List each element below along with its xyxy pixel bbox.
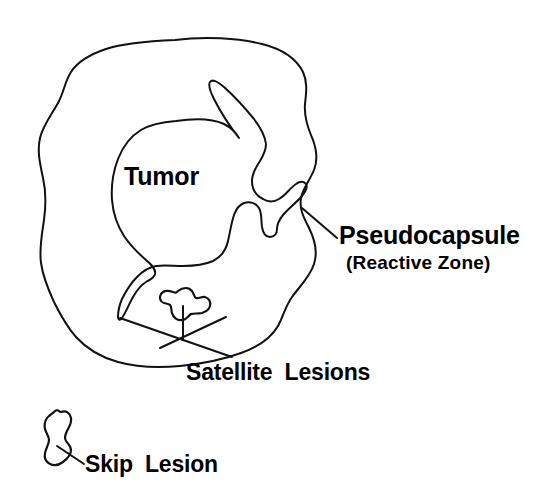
tumor-pseudocapsule-diagram: Tumor Pseudocapsule (Reactive Zone) Sate…: [0, 0, 546, 485]
tumor-tail-leader-line: [120, 318, 232, 357]
label-satellite-lesions: Satellite Lesions: [186, 360, 370, 384]
tumor-outline: [112, 81, 307, 320]
label-reactive-zone: (Reactive Zone): [346, 253, 490, 273]
pseudocapsule-outline: [39, 38, 317, 367]
skip-lesion-outline: [45, 410, 72, 465]
label-tumor: Tumor: [124, 163, 199, 189]
satellite-lesion-outline: [160, 288, 210, 320]
label-skip-lesion: Skip Lesion: [85, 452, 218, 476]
label-pseudocapsule: Pseudocapsule: [339, 222, 520, 248]
